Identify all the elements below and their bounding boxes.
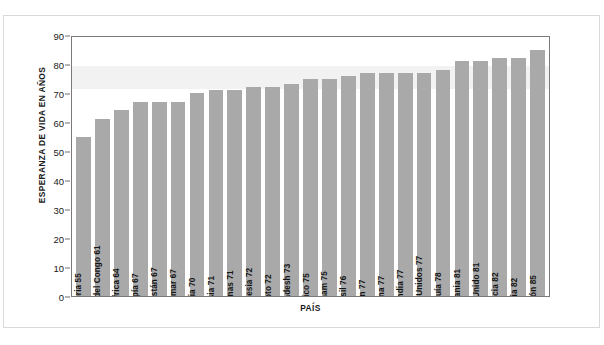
y-axis-tick-70: 70	[53, 89, 64, 100]
bar-label: Irán 77	[359, 279, 367, 297]
y-axis-tick-mark	[65, 65, 70, 66]
bar[interactable]: Alemania 81	[455, 61, 470, 296]
bar[interactable]: Filipinas 71	[227, 90, 242, 296]
bar-slot: Italia 82	[509, 37, 528, 296]
bar[interactable]: México 75	[303, 79, 318, 297]
y-axis-tick-mark	[65, 181, 70, 182]
bar-slot: Etiopía 67	[131, 37, 150, 296]
bar-label: Turquía 78	[435, 272, 443, 297]
y-axis-tick-50: 50	[53, 147, 64, 158]
bar-label: Brasil 76	[340, 275, 348, 297]
bar[interactable]: Vietnam 75	[322, 79, 337, 297]
bar[interactable]: Reino Unido 81	[473, 61, 488, 296]
bar[interactable]: Indonesia 72	[246, 87, 261, 296]
bar-label: Japón 85	[529, 275, 537, 297]
bar-slot: Francia 82	[490, 37, 509, 296]
y-axis-tick-80: 80	[53, 60, 64, 71]
y-axis-tick-mark	[65, 94, 70, 95]
y-axis-tick-mark	[65, 239, 70, 240]
y-axis-tick-mark	[65, 123, 70, 124]
bar[interactable]: Tailandia 77	[398, 73, 413, 296]
bar-label: India 70	[189, 277, 197, 297]
y-axis-tick-labels: 9080706050403020100	[46, 30, 70, 298]
bar-slot: China 77	[377, 37, 396, 296]
x-axis-title: PAÍS	[71, 303, 550, 313]
bar-slot: Rep. Dem. del Congo 61	[93, 37, 112, 296]
bar-label: Rep. Dem. del Congo 61	[94, 245, 102, 297]
bar[interactable]: Italia 82	[511, 58, 526, 296]
bar-slot: Turquía 78	[434, 37, 453, 296]
bar-label: Egipto 72	[264, 274, 272, 297]
y-axis-tick-40: 40	[53, 176, 64, 187]
bar-label: Sudáfrica 64	[113, 268, 121, 297]
bar-label: Tailandia 77	[397, 269, 405, 297]
bar-slot: Reino Unido 81	[471, 37, 490, 296]
bar[interactable]: Francia 82	[492, 58, 507, 296]
bar-label: Myanmar 67	[170, 269, 178, 297]
y-axis-tick-30: 30	[53, 205, 64, 216]
bar-label: México 75	[302, 273, 310, 297]
bar-slot: Alemania 81	[452, 37, 471, 296]
y-axis-tick-90: 90	[53, 31, 64, 42]
bar-slot: Indonesia 72	[244, 37, 263, 296]
bar-slot: Japón 85	[528, 37, 547, 296]
bar[interactable]: Turquía 78	[436, 70, 451, 296]
bar-slot: Sudáfrica 64	[112, 37, 131, 296]
bar-label: Indonesia 72	[246, 268, 254, 297]
bar-label: Etiopía 67	[132, 273, 140, 297]
bar-slot: Vietnam 75	[320, 37, 339, 296]
bar-label: Alemania 81	[454, 269, 462, 297]
bar-label: Rusia 71	[208, 276, 216, 297]
bar-label: Filipinas 71	[227, 270, 235, 297]
bar[interactable]: Nigeria 55	[76, 137, 91, 297]
bar[interactable]: Sudáfrica 64	[114, 110, 129, 296]
bar-slot: Irán 77	[358, 37, 377, 296]
bar[interactable]: Japón 85	[530, 50, 545, 297]
bar-slot: India 70	[188, 37, 207, 296]
bar[interactable]: Egipto 72	[265, 87, 280, 296]
bar-label: Bangladesh 73	[283, 263, 291, 297]
bar-slot: Bangladesh 73	[282, 37, 301, 296]
bar-chart-figure: ESPERANZA DE VIDA EN AÑOS 90807060504030…	[0, 0, 604, 345]
bar-slot: Brasil 76	[339, 37, 358, 296]
bar-label: Reino Unido 81	[473, 263, 481, 298]
bar[interactable]: Rep. Dem. del Congo 61	[95, 119, 110, 296]
bar[interactable]: Rusia 71	[209, 90, 224, 296]
bar[interactable]: Irán 77	[360, 73, 375, 296]
bar[interactable]: Etiopía 67	[133, 102, 148, 296]
y-axis-tick-20: 20	[53, 234, 64, 245]
y-axis-tick-0: 0	[59, 292, 64, 303]
bar-slot: Nigeria 55	[74, 37, 93, 296]
y-axis-tick-mark	[65, 268, 70, 269]
bar[interactable]: India 70	[190, 93, 205, 296]
bar-slot: Tailandia 77	[396, 37, 415, 296]
y-axis-tick-60: 60	[53, 118, 64, 129]
bar[interactable]: China 77	[379, 73, 394, 296]
bar[interactable]: Brasil 76	[341, 76, 356, 296]
bars-container: Nigeria 55Rep. Dem. del Congo 61Sudáfric…	[72, 37, 549, 296]
bar-slot: Rusia 71	[206, 37, 225, 296]
bar[interactable]: Paquistán 67	[152, 102, 167, 296]
bar-label: Estados Unidos 77	[416, 256, 424, 297]
bar-label: Paquistán 67	[151, 267, 159, 297]
bar-slot: Egipto 72	[263, 37, 282, 296]
bar-label: Italia 82	[510, 278, 518, 297]
bar[interactable]: Bangladesh 73	[284, 84, 299, 296]
y-axis-tick-mark	[65, 210, 70, 211]
bar-label: Vietnam 75	[321, 271, 329, 297]
y-axis-tick-10: 10	[53, 263, 64, 274]
y-axis-tick-mark	[65, 36, 70, 37]
y-axis-tick-mark	[65, 297, 70, 298]
bar-slot: Myanmar 67	[169, 37, 188, 296]
bar-slot: Filipinas 71	[225, 37, 244, 296]
plot-area: Nigeria 55Rep. Dem. del Congo 61Sudáfric…	[71, 36, 550, 297]
bar-label: China 77	[378, 276, 386, 297]
bar-slot: México 75	[301, 37, 320, 296]
bar[interactable]: Estados Unidos 77	[417, 73, 432, 296]
y-axis-tick-mark	[65, 152, 70, 153]
bar[interactable]: Myanmar 67	[171, 102, 186, 296]
bar-label: Nigeria 55	[75, 273, 83, 297]
bar-slot: Paquistán 67	[150, 37, 169, 296]
bar-label: Francia 82	[492, 272, 500, 297]
bar-slot: Estados Unidos 77	[415, 37, 434, 296]
